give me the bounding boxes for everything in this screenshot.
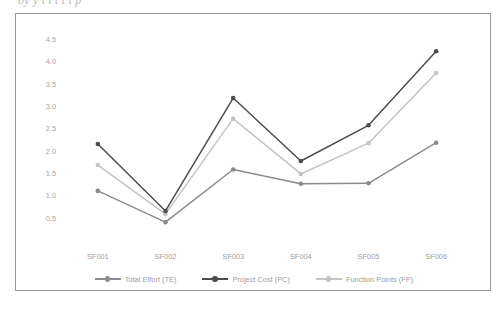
data-point bbox=[96, 163, 101, 168]
data-point bbox=[366, 181, 371, 186]
data-point bbox=[434, 71, 439, 76]
legend-marker-icon bbox=[316, 275, 342, 283]
data-point bbox=[299, 181, 304, 186]
data-point bbox=[231, 167, 236, 172]
y-axis-tick-labels: 0.51.01.52.02.53.03.54.04.5 bbox=[28, 14, 56, 246]
data-point bbox=[299, 172, 304, 177]
data-point bbox=[434, 140, 439, 145]
cropped-title-text: by y t t t t t p bbox=[18, 0, 438, 7]
legend-marker-icon bbox=[202, 275, 228, 283]
y-tick-label: 0.5 bbox=[30, 213, 56, 222]
data-point bbox=[231, 96, 236, 101]
y-tick-label: 4.0 bbox=[30, 57, 56, 66]
x-tick-label: SF002 bbox=[136, 252, 196, 261]
legend-item[interactable]: Function Points (FP) bbox=[316, 275, 413, 284]
data-point bbox=[366, 123, 371, 128]
series-total-effort-te bbox=[96, 140, 439, 224]
y-tick-label: 2.0 bbox=[30, 146, 56, 155]
x-tick-label: SF001 bbox=[68, 252, 128, 261]
y-tick-label: 2.5 bbox=[30, 124, 56, 133]
legend-label: Project Cost (PC) bbox=[232, 275, 290, 284]
data-point bbox=[96, 142, 101, 147]
data-point bbox=[299, 159, 304, 164]
chart-figure-frame: 0.51.01.52.02.53.03.54.04.5 SF001SF002SF… bbox=[15, 13, 491, 291]
line-chart-canvas bbox=[16, 14, 492, 246]
x-tick-label: SF006 bbox=[406, 252, 466, 261]
series-project-cost-pc bbox=[96, 49, 439, 213]
data-point bbox=[434, 49, 439, 54]
x-axis-tick-labels: SF001SF002SF003SF004SF005SF006 bbox=[16, 246, 492, 268]
series-line bbox=[98, 143, 436, 222]
legend-item[interactable]: Total Effort (TE) bbox=[95, 275, 177, 284]
y-tick-label: 3.5 bbox=[30, 79, 56, 88]
y-tick-label: 1.5 bbox=[30, 169, 56, 178]
legend-label: Function Points (FP) bbox=[346, 275, 413, 284]
legend-item[interactable]: Project Cost (PC) bbox=[202, 275, 290, 284]
x-tick-label: SF003 bbox=[203, 252, 263, 261]
series-function-points-fp bbox=[96, 71, 439, 217]
data-point bbox=[231, 116, 236, 121]
data-point bbox=[163, 209, 168, 214]
x-tick-label: SF004 bbox=[271, 252, 331, 261]
plot-area: 0.51.01.52.02.53.03.54.04.5 bbox=[16, 14, 492, 246]
data-point bbox=[366, 141, 371, 146]
y-tick-label: 3.0 bbox=[30, 102, 56, 111]
y-tick-label: 1.0 bbox=[30, 191, 56, 200]
data-point bbox=[163, 220, 168, 225]
chart-legend: Total Effort (TE)Project Cost (PC)Functi… bbox=[16, 270, 492, 288]
y-tick-label: 4.5 bbox=[30, 35, 56, 44]
legend-label: Total Effort (TE) bbox=[125, 275, 177, 284]
data-point bbox=[96, 189, 101, 194]
x-tick-label: SF005 bbox=[339, 252, 399, 261]
legend-marker-icon bbox=[95, 275, 121, 283]
series-line bbox=[98, 51, 436, 211]
series-line bbox=[98, 73, 436, 214]
